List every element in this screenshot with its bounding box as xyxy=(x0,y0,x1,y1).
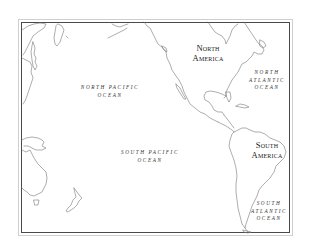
australia-outline xyxy=(22,150,47,196)
new-zealand-outline xyxy=(66,188,82,212)
hudson-bay-coast xyxy=(208,22,238,44)
gulf-of-mexico-coast xyxy=(204,91,226,115)
north-america-west-coast xyxy=(144,22,218,122)
north-pacific-line1: NORTH PACIFIC xyxy=(72,84,148,92)
korea-china-coast xyxy=(22,58,33,104)
north-pacific-ocean-label: NORTH PACIFIC OCEAN xyxy=(72,84,148,99)
north-atlantic-line1: NORTH xyxy=(244,69,290,77)
south-atlantic-line2: ATLANTIC xyxy=(248,208,290,216)
south-atlantic-line3: OCEAN xyxy=(248,215,290,223)
north-america-label: North America xyxy=(186,44,230,63)
south-america-label: South America xyxy=(245,141,289,160)
florida-outline xyxy=(226,92,231,102)
south-atlantic-ocean-label: SOUTH ATLANTIC OCEAN xyxy=(248,200,290,223)
north-atlantic-line3: OCEAN xyxy=(244,84,290,92)
north-pacific-line2: OCEAN xyxy=(72,92,148,100)
alaska-coast xyxy=(112,24,128,27)
baja-california xyxy=(176,84,186,99)
central-america xyxy=(218,115,234,132)
aleutian-islands xyxy=(108,28,127,38)
kamchatka-outline xyxy=(54,24,64,46)
kuril-island xyxy=(66,36,68,38)
north-atlantic-ocean-label: NORTH ATLANTIC OCEAN xyxy=(244,69,290,92)
newfoundland-outline xyxy=(260,40,266,48)
cuba-outline xyxy=(236,104,249,108)
north-america-line2: America xyxy=(186,54,230,64)
south-pacific-line2: OCEAN xyxy=(108,157,192,165)
vancouver-island xyxy=(162,46,167,52)
south-america-line2: America xyxy=(245,151,289,161)
new-guinea-outline xyxy=(22,137,46,150)
south-pacific-ocean-label: SOUTH PACIFIC OCEAN xyxy=(108,149,192,164)
south-atlantic-line1: SOUTH xyxy=(248,200,290,208)
north-atlantic-line2: ATLANTIC xyxy=(244,77,290,85)
asia-coastline xyxy=(22,23,46,55)
south-pacific-line1: SOUTH PACIFIC xyxy=(108,149,192,157)
tasmania-outline xyxy=(34,200,39,205)
